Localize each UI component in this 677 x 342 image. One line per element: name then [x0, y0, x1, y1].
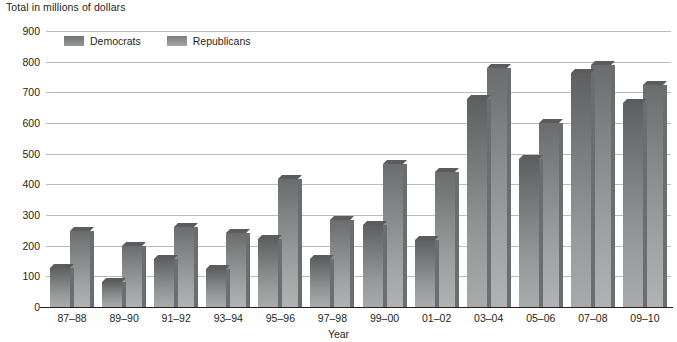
- bar-democrats-97-98: [310, 259, 330, 307]
- bar-side-face: [487, 99, 491, 307]
- bar-democrats-95-96: [258, 239, 278, 307]
- x-tick-01-02: 01–02: [422, 312, 451, 324]
- bar-side-face: [122, 282, 126, 307]
- x-tick-95-96: 95–96: [266, 312, 295, 324]
- legend-label-republicans: Republicans: [193, 35, 251, 47]
- bar-side-face: [539, 159, 543, 307]
- y-axis-unit-title: Total in millions of dollars: [6, 1, 126, 13]
- dem-swatch: [64, 36, 84, 46]
- x-tick-05-06: 05–06: [526, 312, 555, 324]
- bar-front-face: [519, 159, 539, 307]
- y-tick-300: 300: [6, 209, 40, 221]
- legend-item-republicans: Republicans: [167, 35, 251, 47]
- y-tick-400: 400: [6, 178, 40, 190]
- legend-item-democrats: Democrats: [64, 35, 141, 47]
- chart-legend: DemocratsRepublicans: [64, 35, 251, 47]
- y-tick-700: 700: [6, 86, 40, 98]
- bar-front-face: [102, 282, 122, 307]
- bar-front-face: [154, 259, 174, 307]
- bar-front-face: [310, 259, 330, 307]
- bar-side-face: [559, 123, 563, 307]
- gridline-900: [46, 31, 671, 32]
- bar-democrats-99-00: [363, 225, 383, 307]
- x-axis-line: [40, 307, 673, 308]
- bar-front-face: [363, 225, 383, 307]
- bar-side-face: [174, 259, 178, 307]
- bar-side-face: [330, 259, 334, 307]
- bar-chart: Total in millions of dollars 90080070060…: [0, 0, 677, 342]
- y-tick-500: 500: [6, 148, 40, 160]
- bar-side-face: [350, 220, 354, 307]
- x-tick-03-04: 03–04: [474, 312, 503, 324]
- bar-side-face: [194, 227, 198, 307]
- bar-front-face: [571, 73, 591, 307]
- bar-front-face: [415, 240, 435, 307]
- y-tick-600: 600: [6, 117, 40, 129]
- bar-side-face: [435, 240, 439, 307]
- bar-front-face: [50, 268, 70, 307]
- bar-side-face: [278, 239, 282, 307]
- bar-democrats-87-88: [50, 268, 70, 307]
- y-tick-900: 900: [6, 25, 40, 37]
- bar-democrats-89-90: [102, 282, 122, 307]
- rep-swatch: [167, 36, 187, 46]
- bar-front-face: [623, 103, 643, 307]
- y-tick-200: 200: [6, 240, 40, 252]
- x-tick-07-08: 07–08: [578, 312, 607, 324]
- bar-side-face: [142, 246, 146, 307]
- bar-side-face: [246, 233, 250, 307]
- bar-democrats-09-10: [623, 103, 643, 307]
- bar-side-face: [226, 269, 230, 307]
- y-tick-800: 800: [6, 56, 40, 68]
- bar-democrats-91-92: [154, 259, 174, 307]
- bar-side-face: [507, 68, 511, 307]
- bar-democrats-05-06: [519, 159, 539, 307]
- bar-front-face: [258, 239, 278, 307]
- bar-side-face: [70, 268, 74, 307]
- y-tick-100: 100: [6, 270, 40, 282]
- gridline-800: [46, 62, 671, 63]
- bar-side-face: [643, 103, 647, 307]
- bar-democrats-01-02: [415, 240, 435, 307]
- x-tick-91-92: 91–92: [162, 312, 191, 324]
- x-axis-title: Year: [0, 328, 677, 340]
- bar-side-face: [455, 172, 459, 307]
- x-tick-93-94: 93–94: [214, 312, 243, 324]
- bar-front-face: [206, 269, 226, 307]
- bar-side-face: [383, 225, 387, 307]
- bar-democrats-07-08: [571, 73, 591, 307]
- bar-side-face: [611, 65, 615, 307]
- x-tick-99-00: 99–00: [370, 312, 399, 324]
- x-tick-89-90: 89–90: [110, 312, 139, 324]
- bar-side-face: [591, 73, 595, 307]
- x-tick-09-10: 09–10: [630, 312, 659, 324]
- bar-front-face: [467, 99, 487, 307]
- y-tick-0: 0: [6, 301, 40, 313]
- x-tick-87-88: 87–88: [57, 312, 86, 324]
- bar-side-face: [298, 179, 302, 307]
- bar-side-face: [403, 164, 407, 307]
- plot-area: [46, 31, 671, 307]
- y-axis-tick-labels: 9008007006005004003002001000: [0, 31, 40, 307]
- bar-democrats-03-04: [467, 99, 487, 307]
- x-tick-97-98: 97–98: [318, 312, 347, 324]
- legend-label-democrats: Democrats: [90, 35, 141, 47]
- bar-democrats-93-94: [206, 269, 226, 307]
- bar-side-face: [663, 85, 667, 307]
- bar-side-face: [90, 231, 94, 307]
